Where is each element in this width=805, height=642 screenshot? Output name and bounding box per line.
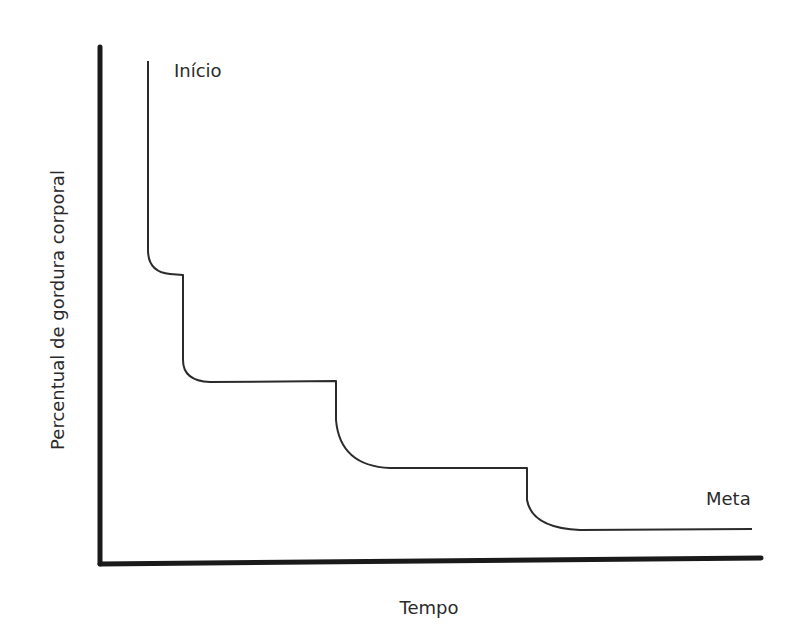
body-fat-curve — [148, 61, 752, 530]
y-axis-label: Percentual de gordura corporal — [47, 170, 68, 450]
goal-annotation: Meta — [706, 488, 751, 509]
start-annotation: Início — [174, 60, 222, 81]
step-curve-chart — [0, 0, 805, 642]
x-axis — [100, 558, 761, 564]
x-axis-label: Tempo — [400, 597, 459, 618]
